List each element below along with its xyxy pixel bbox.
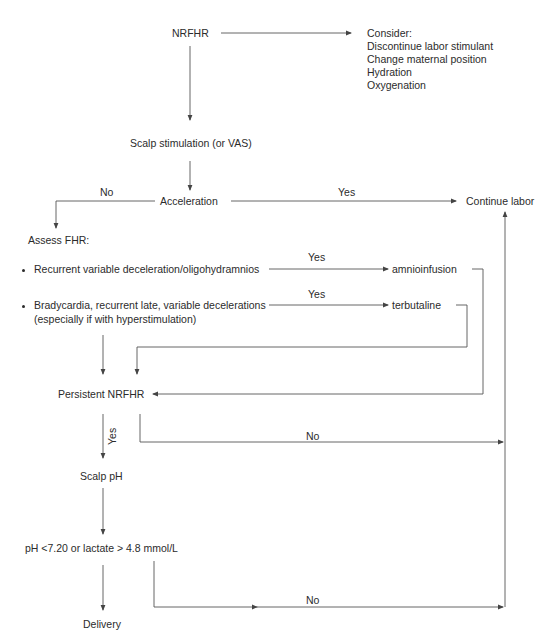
node-terbutaline: terbutaline xyxy=(392,299,441,312)
node-acceleration: Acceleration xyxy=(160,195,218,208)
node-criterion-2-line2: (especially if with hyperstimulation) xyxy=(34,313,196,326)
consider-item: Oxygenation xyxy=(367,79,493,92)
consider-item: Change maternal position xyxy=(367,53,493,66)
edge-label-yes: Yes xyxy=(308,288,325,300)
edge-label-no: No xyxy=(306,430,319,442)
node-criterion-1: Recurrent variable deceleration/oligohyd… xyxy=(34,263,259,276)
edge-label-no: No xyxy=(306,594,319,606)
node-nrfhr: NRFHR xyxy=(172,27,209,40)
node-criterion-2-line1: Bradycardia, recurrent late, variable de… xyxy=(34,299,266,312)
node-scalp-ph: Scalp pH xyxy=(80,470,123,483)
edge-ph-no-part1 xyxy=(154,561,257,607)
bullet-icon xyxy=(22,269,25,272)
edge-label-no: No xyxy=(100,186,113,198)
node-assess-fhr: Assess FHR: xyxy=(28,234,89,247)
consider-item: Hydration xyxy=(367,66,493,79)
edge-label-yes: Yes xyxy=(338,186,355,198)
node-amnioinfusion: amnioinfusion xyxy=(392,263,457,276)
node-consider: Consider: Discontinue labor stimulant Ch… xyxy=(367,27,493,92)
consider-title: Consider: xyxy=(367,27,493,40)
node-ph-threshold: pH <7.20 or lactate > 4.8 mmol/L xyxy=(25,542,178,555)
node-persistent-nrfhr: Persistent NRFHR xyxy=(58,388,144,401)
node-continue-labor: Continue labor xyxy=(466,195,534,208)
node-delivery: Delivery xyxy=(83,618,121,631)
edge-label-yes: Yes xyxy=(106,428,118,445)
node-scalp-stimulation: Scalp stimulation (or VAS) xyxy=(130,137,252,150)
consider-item: Discontinue labor stimulant xyxy=(367,40,493,53)
edge-label-yes: Yes xyxy=(308,251,325,263)
edge-acceleration-no xyxy=(56,201,155,228)
bullet-icon xyxy=(22,305,25,308)
edge-persistent-no xyxy=(140,414,503,442)
